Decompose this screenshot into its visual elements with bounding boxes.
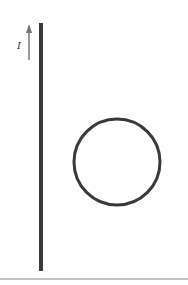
straight-wire xyxy=(39,23,43,271)
current-label: I xyxy=(17,40,21,51)
circular-loop xyxy=(74,119,160,205)
current-arrow-head-icon xyxy=(26,24,32,33)
diagram-canvas xyxy=(0,0,188,285)
